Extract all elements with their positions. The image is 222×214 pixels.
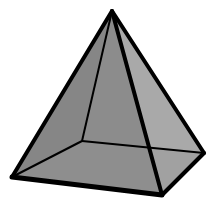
pyramid-figure [0, 0, 222, 214]
pyramid-drawing [0, 0, 222, 214]
